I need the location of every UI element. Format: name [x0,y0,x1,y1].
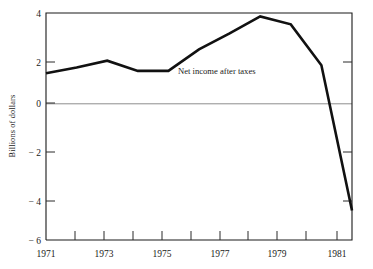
y-tick-label-neg4: − 4 [29,197,42,207]
y-tick-label-2: 2 [36,58,41,68]
x-tick-label-1981: 1981 [328,249,347,259]
x-axis-tick-labels: 1971 1973 1975 1977 1979 1981 [37,249,347,259]
x-tick-label-1971: 1971 [37,249,56,259]
y-tick-label-neg6: − 6 [29,236,42,246]
net-income-line-chart: 4 2 0 − 2 − 4 − 6 1971 1973 1975 1977 19… [0,0,373,269]
y-axis-tick-labels: 4 2 0 − 2 − 4 − 6 [29,9,42,246]
series-annotation-label: Net income after taxes [178,66,256,76]
x-tick-label-1973: 1973 [95,249,114,259]
plot-area-background [46,13,352,240]
x-tick-label-1975: 1975 [153,249,172,259]
y-tick-label-neg2: − 2 [29,148,42,158]
y-tick-label-0: 0 [36,99,41,109]
y-axis-label: Billions of dollars [8,95,17,158]
x-tick-label-1979: 1979 [268,249,287,259]
y-tick-label-4: 4 [36,9,41,19]
x-tick-label-1977: 1977 [211,249,230,259]
chart-container: 4 2 0 − 2 − 4 − 6 1971 1973 1975 1977 19… [0,0,373,269]
